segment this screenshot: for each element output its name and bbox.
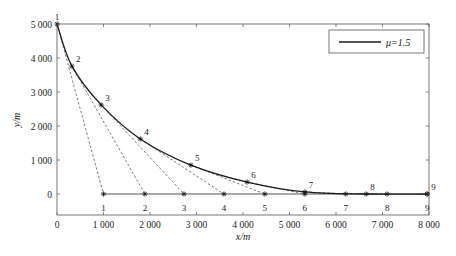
y-tick-label: 5 000 [31, 20, 53, 30]
x-axis-ticks: 01 0002 0003 0004 0005 0006 0007 0008 00… [55, 24, 440, 230]
curve-point-label: 3 [105, 93, 110, 103]
ground-point-label: 7 [344, 203, 349, 213]
ground-point-label: 8 [385, 203, 390, 213]
x-tick-label: 7 000 [372, 220, 394, 230]
curve-point-marker [188, 163, 193, 168]
x-tick-label: 1 000 [93, 220, 115, 230]
curve-point-marker [364, 191, 369, 196]
dashed-connector-2 [72, 66, 145, 194]
ground-point-label: 6 [303, 203, 308, 213]
curve-point-label: 6 [251, 170, 256, 180]
ground-point-label: 3 [182, 203, 187, 213]
legend: μ=1.5 [329, 30, 424, 53]
x-tick-label: 3 000 [186, 220, 208, 230]
y-tick-label: 3 000 [31, 88, 53, 98]
x-tick-label: 8 000 [418, 220, 440, 230]
curve-point-label: 2 [76, 54, 81, 64]
x-tick-label: 2 000 [139, 220, 161, 230]
x-tick-label: 6 000 [325, 220, 347, 230]
y-tick-label: 0 [47, 190, 52, 200]
dashed-connector-3 [101, 105, 184, 194]
y-tick-label: 1 000 [31, 156, 53, 166]
curve-point-label: 9 [431, 182, 436, 192]
y-tick-label: 2 000 [31, 122, 53, 132]
ground-point-label: 5 [263, 203, 268, 213]
x-tick-label: 4 000 [232, 220, 254, 230]
ground-point-label: 4 [222, 203, 227, 213]
ground-point-marker [142, 191, 147, 196]
figure-caption-blurred [110, 238, 360, 246]
curve-point-label: 5 [195, 153, 200, 163]
curve-point-label: 1 [55, 12, 60, 22]
chart: 123456789 123456789 01 0002 0003 0004 00… [0, 0, 456, 256]
dashed-connector-1 [57, 24, 104, 194]
curve-point-label: 7 [309, 180, 314, 190]
curve-point-marker [69, 64, 74, 69]
curve-point-label: 4 [144, 127, 149, 137]
curve-point-marker [302, 189, 307, 194]
ground-point-label: 9 [425, 203, 430, 213]
ground-point-marker [262, 191, 267, 196]
ground-point-marker [221, 191, 226, 196]
ground-point-marker [181, 191, 186, 196]
legend-label: μ=1.5 [385, 37, 410, 48]
y-axis-label: y/m [11, 113, 22, 128]
ground-point-label: 1 [101, 203, 106, 213]
ground-point-marker [101, 191, 106, 196]
ground-point-label: 2 [143, 203, 148, 213]
curve-point-label: 8 [370, 182, 375, 192]
x-tick-label: 5 000 [279, 220, 301, 230]
x-tick-label: 0 [55, 220, 60, 230]
curve-point-marker [245, 180, 250, 185]
y-tick-label: 4 000 [31, 54, 53, 64]
